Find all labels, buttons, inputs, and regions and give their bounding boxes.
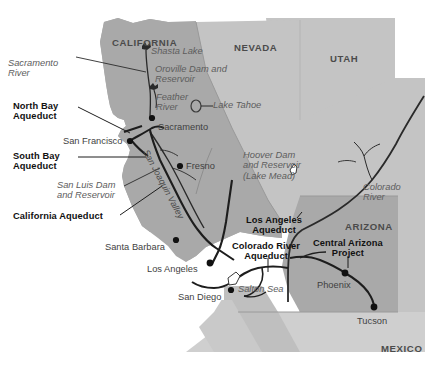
city-label-los-angeles: Los Angeles [147,264,198,274]
water-label-salton-sea: Salton Sea [238,284,284,294]
aqueduct-label-california: California Aqueduct [13,211,103,221]
city-dot-santa-barbara [173,237,179,243]
city-dot-phoenix [342,270,349,277]
city-dot-san-francisco [127,138,133,144]
aqueduct-label-colorado-river: Colorado River Aqueduct [232,241,300,262]
city-label-san-diego: San Diego [178,292,221,302]
city-dot-sacramento [149,115,155,121]
city-dot-san-diego [228,287,234,293]
background-notch-left [0,0,100,352]
background-notch-bottom [0,352,430,371]
water-label-oroville-dam: Oroville Dam and Reservoir [155,64,227,85]
state-label-arizona: ARIZONA [345,222,393,233]
state-label-utah: UTAH [330,54,358,65]
city-dot-tucson [371,304,378,311]
water-label-feather-river: Feather River [156,92,188,113]
aqueduct-label-north-bay: North Bay Aqueduct [13,101,58,122]
project-label-central-arizona: Central Arizona Project [313,238,383,259]
state-label-nevada: NEVADA [234,43,277,54]
water-label-colorado-river: Colorado River [363,182,401,203]
aqueduct-label-south-bay: South Bay Aqueduct [13,151,60,172]
water-label-sacramento-river: Sacramento River [8,58,58,79]
city-label-tucson: Tucson [357,316,387,326]
city-label-fresno: Fresno [186,161,215,171]
city-dot-fresno [177,163,183,169]
city-dot-los-angeles [207,260,214,267]
aqueduct-label-los-angeles: Los Angeles Aqueduct [246,215,302,236]
water-label-shasta-lake: Shasta Lake [151,46,203,56]
city-label-phoenix: Phoenix [317,280,351,290]
state-label-mexico: MEXICO [381,344,422,355]
water-label-hoover-dam: Hoover Dam and Reservoir (Lake Mead) [243,150,301,181]
city-label-santa-barbara: Santa Barbara [105,242,165,252]
city-label-sacramento: Sacramento [158,122,208,132]
city-label-san-francisco: San Francisco [63,136,122,146]
water-projects-map: CALIFORNIA NEVADA UTAH ARIZONA MEXICO Sa… [0,0,430,371]
water-label-lake-tahoe: Lake Tahoe [213,100,261,110]
water-label-san-luis-dam: San Luis Dam and Reservoir [57,180,115,201]
